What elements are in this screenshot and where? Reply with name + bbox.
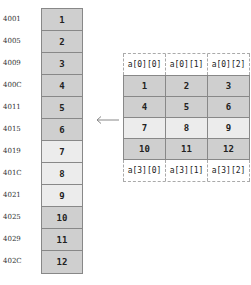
memory-address: 401C [3, 162, 37, 184]
memory-address: 400C [3, 74, 37, 96]
array-cell: 12 [208, 139, 250, 160]
array-cell: 1 [123, 76, 166, 97]
memory-cell: 4 [42, 75, 82, 97]
memory-address: 4015 [3, 118, 37, 140]
array-row: 456 [123, 97, 250, 118]
memory-cell: 7 [42, 141, 82, 163]
header-row-top: a[0][0] a[0][1] a[0][2] [123, 53, 250, 75]
array-cell: 5 [166, 97, 208, 118]
array-cell: 10 [123, 139, 166, 160]
memory-address: 4025 [3, 206, 37, 228]
header-cell: a[3][1] [166, 160, 208, 181]
memory-cell: 5 [42, 97, 82, 119]
memory-address: 4019 [3, 140, 37, 162]
memory-address: 4005 [3, 30, 37, 52]
memory-address: 4029 [3, 228, 37, 250]
header-cell: a[0][1] [166, 54, 208, 75]
header-cell: a[0][0] [123, 54, 166, 75]
memory-column: 123456789101112 [41, 8, 83, 274]
header-cell: a[0][2] [208, 54, 250, 75]
memory-cell: 1 [42, 9, 82, 31]
array-grid: a[0][0] a[0][1] a[0][2] 123456789101112 … [123, 53, 250, 182]
array-cell: 3 [208, 76, 250, 97]
header-row-bottom: a[3][0] a[3][1] a[3][2] [123, 160, 250, 182]
array-cell: 11 [166, 139, 208, 160]
memory-address: 402C [3, 250, 37, 272]
memory-address: 4021 [3, 184, 37, 206]
array-cell: 8 [166, 118, 208, 139]
memory-cell: 8 [42, 163, 82, 185]
array-cell: 6 [208, 97, 250, 118]
memory-cell: 11 [42, 229, 82, 251]
array-row: 789 [123, 118, 250, 139]
array-cell: 4 [123, 97, 166, 118]
memory-address: 4009 [3, 52, 37, 74]
memory-cell: 6 [42, 119, 82, 141]
memory-cell: 10 [42, 207, 82, 229]
memory-address: 4001 [3, 8, 37, 30]
memory-cell: 9 [42, 185, 82, 207]
memory-address: 4011 [3, 96, 37, 118]
header-cell: a[3][0] [123, 160, 166, 181]
memory-cell: 2 [42, 31, 82, 53]
array-row: 101112 [123, 139, 250, 160]
memory-cell: 3 [42, 53, 82, 75]
array-cell: 7 [123, 118, 166, 139]
array-cell: 9 [208, 118, 250, 139]
array-cell: 2 [166, 76, 208, 97]
array-row: 123 [123, 76, 250, 97]
header-cell: a[3][2] [208, 160, 250, 181]
memory-cell: 12 [42, 251, 82, 273]
left-arrow-icon [95, 115, 119, 125]
